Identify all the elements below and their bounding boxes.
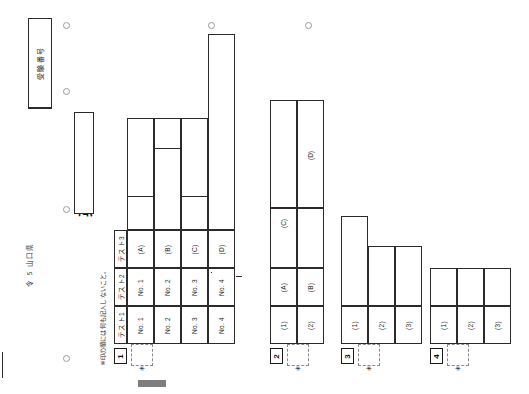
question-number-2: 2 (270, 348, 283, 364)
title-frame (74, 112, 94, 214)
header-test1-no2: No. 2 (154, 306, 181, 344)
header-test3-b: (B) (154, 230, 181, 268)
answer-test3-c[interactable] (181, 196, 208, 230)
registration-mark (63, 22, 70, 29)
answer-s4-2[interactable] (457, 268, 484, 306)
score-box-1 (131, 344, 153, 366)
question-number-4: 4 (430, 348, 443, 364)
answer-s4-1[interactable] (430, 268, 457, 306)
header-test2-no1: No. 1 (127, 268, 154, 306)
star-mark-4: ✳ (455, 365, 461, 372)
answer-test3-a[interactable] (127, 196, 154, 230)
answer-s3-1[interactable] (341, 216, 368, 306)
header-s2-a: (A) (270, 268, 297, 306)
header-test3-c: (C) (181, 230, 208, 268)
header-s3-3: (3) (395, 306, 422, 344)
header-s2-b: (B) (297, 268, 324, 306)
header-s2-2: (2) (297, 306, 324, 344)
registration-mark (63, 88, 70, 95)
answer-s4-3[interactable] (484, 268, 511, 306)
answer-test3-b[interactable] (154, 148, 181, 230)
exam-number-label: 受験番号 (35, 46, 45, 80)
header-test2-no4: No. 4 (208, 268, 235, 306)
registration-mark (63, 206, 70, 213)
star-mark-1: ✳ (139, 365, 145, 372)
registration-mark (305, 22, 312, 29)
header-s4-2: (2) (457, 306, 484, 344)
header-test1-no3: No. 3 (181, 306, 208, 344)
exam-number-divider (28, 108, 52, 109)
header-s4-1: (1) (430, 306, 457, 344)
header-test3-a: (A) (127, 230, 154, 268)
answer-s3-2[interactable] (368, 246, 395, 306)
score-box-3 (358, 344, 380, 366)
edge-tick (2, 352, 3, 378)
header-s3-1: (1) (341, 306, 368, 344)
header-test2-no2: No. 2 (154, 268, 181, 306)
score-box-4 (447, 344, 469, 366)
star-mark-2: ✳ (295, 365, 301, 372)
row-label-test2: テスト2 (114, 268, 127, 306)
header-test2-no3: No. 3 (181, 268, 208, 306)
guide-tick (236, 276, 242, 277)
header-s2-c: (C) (270, 208, 297, 238)
registration-mark (63, 355, 70, 362)
header-test1-no1: No. 1 (127, 306, 154, 344)
row-label-test1: テスト1 (114, 306, 127, 344)
exam-number-box[interactable]: 受験番号 (28, 18, 52, 108)
registration-mark (208, 22, 215, 29)
answer-s2-c[interactable] (270, 100, 297, 208)
answer-s3-3[interactable] (395, 246, 422, 306)
row-label-test3: テスト3 (114, 230, 127, 268)
question-number-3: 3 (341, 348, 354, 364)
bottom-marker-bar (138, 380, 166, 387)
header-s3-2: (2) (368, 306, 395, 344)
instruction-note: ※印の欄には何も記入しないこと。 (96, 268, 108, 364)
header-s2-d: (D) (297, 140, 324, 170)
answer-sheet: 受験番号 令 5 山口県 英語解答用紙 ※印の欄には何も記入しないこと。 1 ✳… (0, 0, 529, 394)
star-mark-3: ✳ (366, 365, 372, 372)
score-box-2 (287, 344, 309, 366)
header-s2-1: (1) (270, 306, 297, 344)
question-number-1: 1 (114, 348, 127, 364)
guide-tick (211, 272, 212, 273)
answer-test3-d[interactable] (208, 34, 235, 230)
answer-s2-b[interactable] (297, 208, 324, 268)
header-s4-3: (3) (484, 306, 511, 344)
header-test1-no4: No. 4 (208, 306, 235, 344)
prefecture-line: 令 5 山口県 (22, 230, 36, 300)
header-test3-d: (D) (208, 230, 235, 268)
